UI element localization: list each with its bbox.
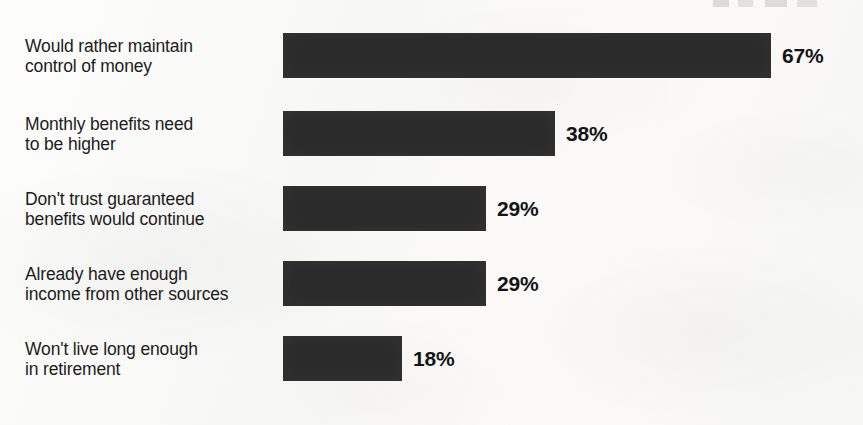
- bar-category-label: Won't live long enough in retirement: [25, 339, 275, 379]
- bar-value-label: 38%: [566, 122, 607, 146]
- bar-category-label: Don't trust guaranteed benefits would co…: [25, 189, 275, 229]
- bar-rect: [283, 186, 486, 231]
- chart-row: Already have enough income from other so…: [0, 261, 863, 306]
- bar-rect: [283, 111, 555, 156]
- chart-row: Don't trust guaranteed benefits would co…: [0, 186, 863, 231]
- chart-row: Monthly benefits need to be higher 38%: [0, 111, 863, 156]
- bar-value-label: 29%: [497, 197, 538, 221]
- chart-row: Won't live long enough in retirement 18%: [0, 336, 863, 381]
- bar-value-label: 67%: [782, 44, 823, 68]
- bar-category-label: Monthly benefits need to be higher: [25, 114, 275, 154]
- bar-rect: [283, 261, 486, 306]
- bar-category-label: Would rather maintain control of money: [25, 36, 275, 76]
- chart-row: Would rather maintain control of money 6…: [0, 33, 863, 78]
- bar-chart-rows: Would rather maintain control of money 6…: [0, 0, 863, 425]
- bar-chart-figure: Would rather maintain control of money 6…: [0, 0, 863, 425]
- bar-rect: [283, 336, 402, 381]
- bar-value-label: 29%: [497, 272, 538, 296]
- bar-value-label: 18%: [413, 347, 454, 371]
- bar-category-label: Already have enough income from other so…: [25, 264, 275, 304]
- bar-rect: [283, 33, 771, 78]
